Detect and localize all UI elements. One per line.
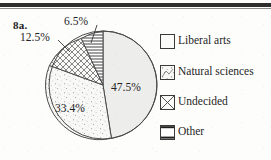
pie-label-undecided-text: 12.5% bbox=[20, 31, 50, 43]
horizontal-lines-square-swatch bbox=[160, 125, 175, 140]
pie-label-other: 6.5% bbox=[64, 11, 88, 29]
pie-label-undecided: 12.5% bbox=[20, 27, 50, 45]
chart-legend: Liberal arts bbox=[160, 28, 271, 153]
figure-page: 8a. bbox=[0, 0, 271, 160]
pie-label-liberal-arts-text: 47.5% bbox=[111, 81, 141, 93]
pie-label-natural-sciences-text: 33.4% bbox=[55, 102, 85, 114]
legend-label-other: Other bbox=[178, 126, 204, 138]
legend-item-natural-sciences[interactable]: Natural sciences bbox=[160, 63, 254, 81]
pie-label-other-text: 6.5% bbox=[64, 15, 88, 27]
plain-square-swatch bbox=[160, 34, 175, 49]
legend-label-undecided: Undecided bbox=[178, 96, 228, 108]
pie-label-liberal-arts: 47.5% bbox=[111, 77, 141, 95]
legend-item-other[interactable]: Other bbox=[160, 123, 204, 141]
top-rule-thin bbox=[0, 8, 271, 9]
top-rule-thick bbox=[0, 3, 271, 7]
pie-label-natural-sciences: 33.4% bbox=[55, 98, 85, 116]
legend-label-natural-sciences: Natural sciences bbox=[178, 66, 254, 78]
pie-chart: 47.5% 33.4% 12.5% 6.5% bbox=[18, 10, 168, 155]
legend-label-liberal-arts: Liberal arts bbox=[178, 35, 231, 47]
dotted-square-swatch bbox=[160, 65, 175, 80]
legend-item-liberal-arts[interactable]: Liberal arts bbox=[160, 32, 231, 50]
legend-item-undecided[interactable]: Undecided bbox=[160, 93, 228, 111]
cross-hatch-square-swatch bbox=[160, 95, 175, 110]
